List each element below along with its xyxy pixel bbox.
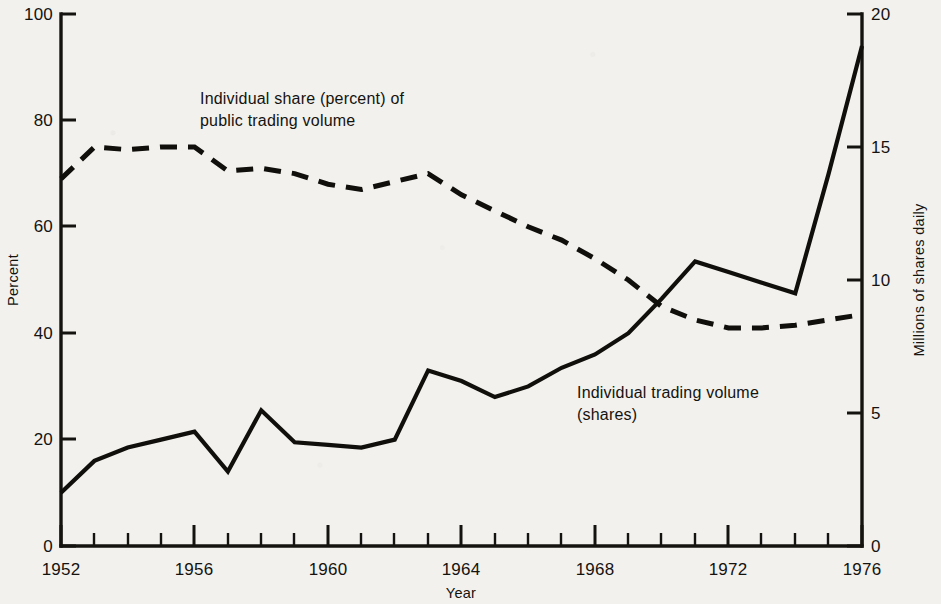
x-ticklabel-1964: 1964 [442, 560, 481, 579]
y2-axis-title: Millions of shares daily [911, 203, 927, 357]
left-ticklabel-20: 20 [34, 430, 53, 449]
series-individual-trading-volume-line [61, 46, 862, 493]
annotation-individual-volume-line1: Individual trading volume [577, 384, 759, 401]
x-ticklabel-1968: 1968 [576, 560, 615, 579]
left-ticklabel-0: 0 [43, 537, 53, 556]
x-axis-ticks [61, 525, 862, 546]
left-ticklabel-40: 40 [34, 324, 53, 343]
annotation-individual-volume-line2: (shares) [577, 406, 637, 423]
right-ticklabel-10: 10 [871, 271, 890, 290]
right-ticklabel-0: 0 [871, 537, 881, 556]
chart-figure: 100 80 60 40 20 0 20 15 10 5 0 [0, 0, 941, 604]
x-ticklabel-1960: 1960 [309, 560, 348, 579]
x-ticklabel-1956: 1956 [175, 560, 214, 579]
left-axis-ticks [61, 14, 76, 546]
left-ticklabel-60: 60 [34, 217, 53, 236]
x-axis-ticklabels: 1952 1956 1960 1964 1968 1972 1976 [42, 560, 882, 579]
x-ticklabel-1976: 1976 [843, 560, 882, 579]
left-ticklabel-100: 100 [24, 5, 53, 24]
right-axis-ticklabels: 20 15 10 5 0 [871, 5, 890, 556]
y-axis-title: Percent [5, 254, 21, 306]
x-ticklabel-1952: 1952 [42, 560, 81, 579]
left-axis-ticklabels: 100 80 60 40 20 0 [24, 5, 53, 556]
annotation-individual-share-line1: Individual share (percent) of [200, 90, 404, 107]
annotation-individual-share-line2: public trading volume [200, 112, 355, 129]
right-ticklabel-15: 15 [871, 138, 890, 157]
right-ticklabel-20: 20 [871, 5, 890, 24]
x-axis-title: Year [446, 585, 477, 601]
annotation-individual-volume: Individual trading volume (shares) [577, 384, 759, 423]
chart-svg: 100 80 60 40 20 0 20 15 10 5 0 [0, 0, 941, 604]
series-individual-share-line [61, 147, 862, 328]
right-ticklabel-5: 5 [871, 404, 881, 423]
x-ticklabel-1972: 1972 [709, 560, 748, 579]
annotation-individual-share: Individual share (percent) of public tra… [200, 90, 404, 129]
left-ticklabel-80: 80 [34, 111, 53, 130]
data-series-group [61, 46, 862, 493]
axes-group [61, 14, 862, 546]
